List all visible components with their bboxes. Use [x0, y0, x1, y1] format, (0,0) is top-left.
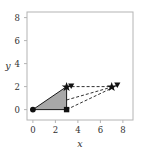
x-tick-label-2: 4 [75, 125, 80, 135]
y-tick-label-3: 6 [15, 36, 20, 46]
plot-svg: 0 2 4 6 8 0 2 4 6 8 x y [0, 0, 148, 153]
square-marker [64, 107, 69, 112]
chart-figure: 0 2 4 6 8 0 2 4 6 8 x y [0, 0, 148, 153]
x-tick-label-3: 6 [98, 125, 103, 135]
circle-marker-origin [30, 107, 36, 113]
x-tick-label-1: 2 [53, 125, 58, 135]
y-tick-label-1: 2 [15, 82, 20, 92]
y-tick-label-0: 0 [15, 105, 20, 115]
x-tick-label-0: 0 [30, 125, 35, 135]
y-tick-label-2: 4 [15, 59, 20, 69]
y-axis-title: y [4, 60, 11, 71]
x-tick-label-4: 8 [120, 125, 125, 135]
y-tick-label-4: 8 [15, 13, 20, 23]
x-axis-title: x [77, 138, 83, 149]
